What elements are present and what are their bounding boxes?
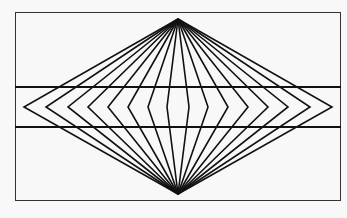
- hering-illusion-diagram: [0, 0, 347, 218]
- frame-border: [16, 13, 341, 201]
